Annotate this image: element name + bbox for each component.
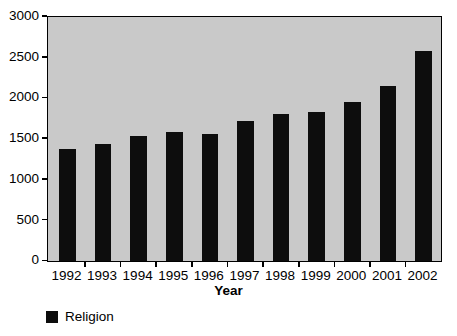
bar-chart-figure: 050010001500200025003000 199219931994199… (0, 0, 457, 336)
x-axis-title: Year (0, 283, 457, 298)
y-tick-label: 2000 (9, 88, 39, 106)
y-tick-mark (42, 56, 47, 58)
y-tick-mark (42, 260, 47, 262)
bar (59, 149, 76, 261)
plot-area (47, 16, 442, 262)
legend: Religion (46, 310, 114, 324)
bar (380, 86, 397, 261)
bar (237, 121, 254, 261)
y-axis: 050010001500200025003000 (0, 0, 47, 278)
y-tick-mark (42, 219, 47, 221)
bar (95, 144, 112, 261)
bar (308, 112, 325, 261)
y-tick-label: 1000 (9, 170, 39, 188)
y-tick-mark (42, 15, 47, 17)
legend-swatch-religion (46, 311, 58, 323)
y-tick-mark (42, 137, 47, 139)
y-tick-label: 500 (16, 211, 39, 229)
bar (166, 132, 183, 261)
legend-label-religion: Religion (65, 310, 114, 324)
y-tick-label: 2500 (9, 48, 39, 66)
y-tick-mark (42, 178, 47, 180)
y-tick-label: 3000 (9, 7, 39, 25)
bar (130, 136, 147, 261)
y-tick-mark (42, 97, 47, 99)
bar (344, 102, 361, 261)
bar (415, 51, 432, 261)
bar (273, 114, 290, 261)
bar (202, 134, 219, 261)
y-tick-label: 1500 (9, 129, 39, 147)
x-axis: 1992199319941995199619971998199920002001… (0, 262, 457, 284)
